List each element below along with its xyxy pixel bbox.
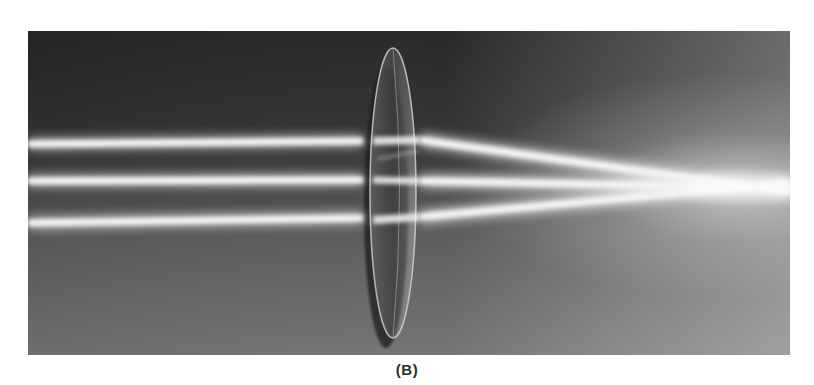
figure-caption: (B) xyxy=(0,361,814,378)
biconvex-lens xyxy=(370,48,416,338)
photo-canvas xyxy=(28,31,790,355)
beam-bottom xyxy=(28,218,363,223)
lens-figure: (B) xyxy=(0,0,814,385)
beam-middle xyxy=(28,180,363,181)
lens-photograph xyxy=(28,31,790,355)
beam-top xyxy=(28,141,363,144)
